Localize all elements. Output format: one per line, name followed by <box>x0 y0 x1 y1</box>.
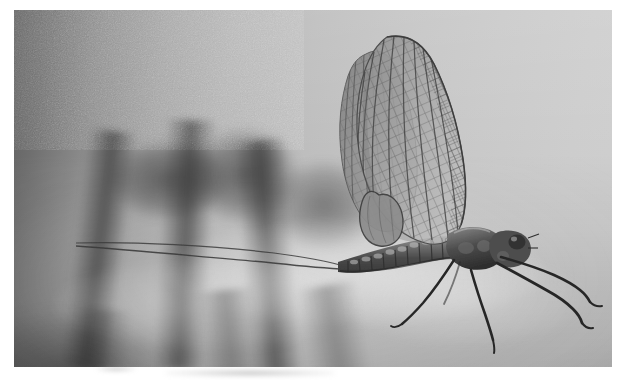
midleg <box>471 270 493 340</box>
legs <box>391 257 602 353</box>
hindleg-far <box>444 262 460 304</box>
antenna-upper <box>528 234 539 238</box>
cercus-lower <box>76 246 340 269</box>
photo-caption <box>0 0 1 1</box>
midleg-tarsus <box>493 340 494 353</box>
foreleg-lower-tarsus <box>582 323 593 328</box>
compound-eye <box>509 235 526 250</box>
hindleg-tarsus <box>391 324 402 327</box>
mayfly <box>14 10 612 367</box>
page-title: Mayfly resting on a human hand <box>0 21 1 22</box>
cercus-upper <box>76 243 340 265</box>
foreleg-upper-tarsus <box>590 302 602 306</box>
photograph <box>14 10 612 367</box>
cerci <box>76 243 340 269</box>
margin-smudge-secondary <box>96 366 136 372</box>
hindleg <box>402 260 454 324</box>
photo-page: Mayfly resting on a human hand <box>0 0 627 380</box>
margin-smudge <box>165 369 335 377</box>
foreleg-lower <box>497 263 582 323</box>
